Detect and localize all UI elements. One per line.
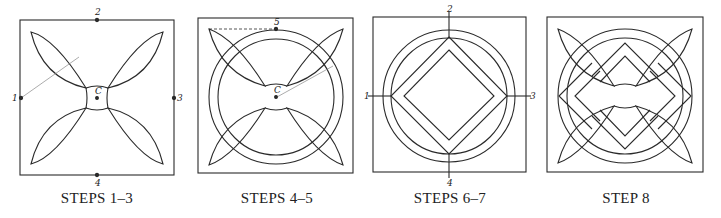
panel-step-8 <box>547 17 703 172</box>
point-label-5: 5 <box>274 17 280 27</box>
band-right-inner <box>650 71 675 121</box>
point-label-4: 4 <box>94 178 101 188</box>
petal-bottom-left <box>31 108 86 164</box>
caption-steps-6-7: STEPS 6–7 <box>370 190 530 207</box>
outer-ring-outer <box>558 29 692 163</box>
compass-line <box>21 57 79 98</box>
point-label-2: 2 <box>94 7 101 17</box>
band-left-inner <box>575 71 600 121</box>
point-label-c2: C <box>274 85 281 95</box>
band-top-outer <box>592 43 658 76</box>
panel-steps-6-7 <box>368 12 531 178</box>
knot-construction-diagram: 2 1 3 4 C 5 C 2 1 3 4 <box>0 0 721 218</box>
point-label-1b: 1 <box>364 91 370 101</box>
point-label-2b: 2 <box>446 4 453 14</box>
inner-diamond <box>404 50 494 140</box>
point-label-3b: 3 <box>530 91 536 101</box>
petal-top-right <box>108 32 163 88</box>
point-label-3: 3 <box>177 93 183 103</box>
point-label-4b: 4 <box>446 178 453 188</box>
caption-step-8: STEP 8 <box>546 190 706 207</box>
band-bottom-outer <box>592 116 658 149</box>
panel-steps-1-3 <box>19 18 175 176</box>
caption-steps-4-5: STEPS 4–5 <box>197 190 357 207</box>
inner-circle <box>391 38 507 154</box>
caption-steps-1-3: STEPS 1–3 <box>17 190 177 207</box>
panel-steps-4-5 <box>198 18 353 173</box>
point-label-c: C <box>95 86 102 96</box>
compass-line <box>277 66 333 97</box>
point-label-1: 1 <box>12 93 18 103</box>
petal-bottom-right <box>108 108 163 164</box>
panel-frame <box>373 17 526 172</box>
petal-top-left <box>31 32 86 88</box>
